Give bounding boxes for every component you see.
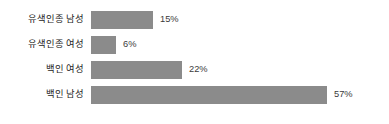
bar-zone: 57%: [91, 86, 389, 104]
bar: [91, 11, 153, 29]
value-label: 6%: [123, 40, 136, 49]
value-label: 15%: [160, 15, 179, 24]
category-label: 백인 남성: [0, 90, 84, 99]
bar: [91, 36, 116, 54]
bar-zone: 22%: [91, 61, 389, 79]
value-label: 57%: [334, 90, 353, 99]
horizontal-bar-chart: 유색인종 남성 15% 유색인종 여성 6% 백인 여성 22% 백인 남성 5…: [0, 0, 389, 124]
value-label: 22%: [189, 65, 208, 74]
category-label: 유색인종 남성: [0, 15, 84, 24]
chart-row: 백인 여성 22%: [0, 57, 389, 82]
chart-row: 유색인종 여성 6%: [0, 32, 389, 57]
bar: [91, 86, 327, 104]
chart-row: 백인 남성 57%: [0, 82, 389, 107]
bar-zone: 6%: [91, 36, 389, 54]
category-label: 백인 여성: [0, 65, 84, 74]
category-label: 유색인종 여성: [0, 40, 84, 49]
bar: [91, 61, 182, 79]
chart-row: 유색인종 남성 15%: [0, 7, 389, 32]
bar-zone: 15%: [91, 11, 389, 29]
